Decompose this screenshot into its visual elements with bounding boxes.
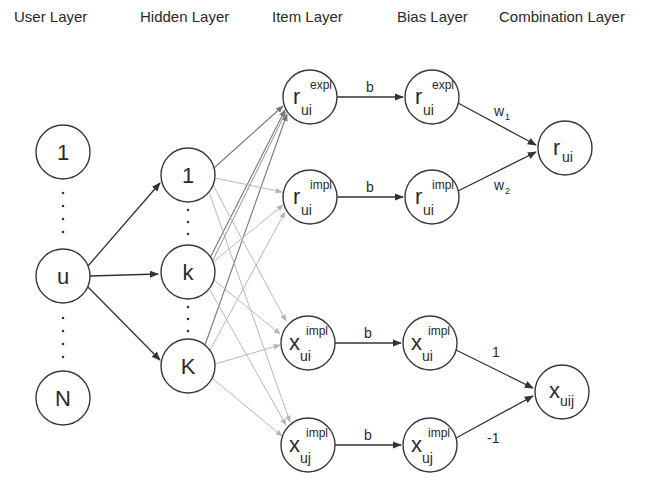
svg-text:r: r — [553, 135, 560, 160]
svg-text:1: 1 — [182, 163, 194, 188]
item-node-r-expl: r expl ui — [283, 70, 337, 124]
item-node-x-ui: x impl ui — [281, 316, 335, 370]
hidden-node-1: 1 — [161, 148, 215, 202]
user-node-1: 1 — [36, 125, 90, 179]
combination-node-x-uij: x uij — [535, 365, 589, 419]
weight-label-plus-one: 1 — [492, 344, 500, 360]
svg-text:ui: ui — [562, 149, 573, 165]
hidden-node-K: K — [161, 339, 215, 393]
svg-text:r: r — [293, 84, 300, 109]
weight-label-minus-one: -1 — [487, 430, 500, 446]
user-node-n: N — [36, 371, 90, 425]
bias-to-combination-edges — [456, 103, 536, 438]
hidden-to-item-edges — [205, 106, 290, 436]
weight-label-w2: w 2 — [493, 177, 510, 196]
network-diagram: 1 u N 1 k K r expl ui r impl ui x impl u… — [0, 0, 645, 500]
user-to-hidden-edges — [88, 183, 160, 360]
svg-text:uj: uj — [300, 450, 311, 466]
svg-text:impl: impl — [428, 426, 450, 440]
svg-text:uj: uj — [422, 450, 433, 466]
svg-text:impl: impl — [306, 426, 328, 440]
svg-text:N: N — [55, 386, 71, 411]
item-to-bias-edges — [335, 97, 403, 445]
svg-text:impl: impl — [432, 178, 454, 192]
svg-text:x: x — [289, 330, 300, 355]
svg-text:ui: ui — [300, 348, 311, 364]
svg-text:r: r — [293, 184, 300, 209]
bias-label-2: b — [366, 179, 374, 195]
svg-text:ui: ui — [422, 348, 433, 364]
svg-text:x: x — [411, 330, 422, 355]
svg-text:1: 1 — [505, 112, 510, 122]
svg-text:uij: uij — [560, 393, 574, 409]
svg-text:1: 1 — [57, 140, 69, 165]
svg-text:ui: ui — [423, 202, 434, 218]
bias-node-x-uj: x impl uj — [403, 418, 457, 472]
svg-text:ui: ui — [301, 102, 312, 118]
svg-text:x: x — [549, 378, 560, 403]
bias-node-r-expl: r expl ui — [405, 70, 459, 124]
svg-text:w: w — [493, 103, 505, 119]
bias-node-r-impl: r impl ui — [405, 170, 459, 224]
bias-label-3: b — [364, 325, 372, 341]
svg-text:r: r — [415, 184, 422, 209]
svg-text:k: k — [183, 260, 195, 285]
svg-text:expl: expl — [432, 78, 454, 92]
svg-text:impl: impl — [428, 324, 450, 338]
svg-text:impl: impl — [310, 178, 332, 192]
svg-text:expl: expl — [310, 78, 332, 92]
bias-node-x-ui: x impl ui — [403, 316, 457, 370]
svg-text:x: x — [289, 432, 300, 457]
combination-node-r-ui: r ui — [538, 121, 592, 175]
bias-label-1: b — [366, 79, 374, 95]
svg-text:r: r — [415, 84, 422, 109]
svg-text:impl: impl — [306, 324, 328, 338]
item-node-r-impl: r impl ui — [283, 170, 337, 224]
svg-text:ui: ui — [423, 102, 434, 118]
svg-text:2: 2 — [505, 186, 510, 196]
weight-label-w1: w 1 — [493, 103, 510, 122]
svg-text:ui: ui — [301, 202, 312, 218]
item-node-x-uj: x impl uj — [281, 418, 335, 472]
svg-text:K: K — [181, 354, 196, 379]
svg-text:x: x — [411, 432, 422, 457]
bias-label-4: b — [364, 427, 372, 443]
user-node-u: u — [36, 249, 90, 303]
svg-text:w: w — [493, 177, 505, 193]
svg-text:u: u — [57, 264, 69, 289]
hidden-node-k: k — [161, 245, 215, 299]
